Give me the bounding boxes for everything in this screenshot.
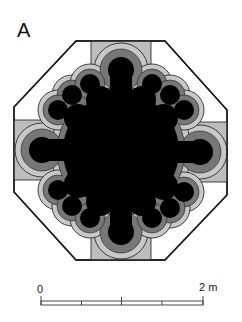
octagon-plan-diagram [0,0,242,322]
scale-end-label: 2 m [199,282,217,293]
scale-start-label: 0 [37,284,43,295]
scale-bar [41,296,203,305]
